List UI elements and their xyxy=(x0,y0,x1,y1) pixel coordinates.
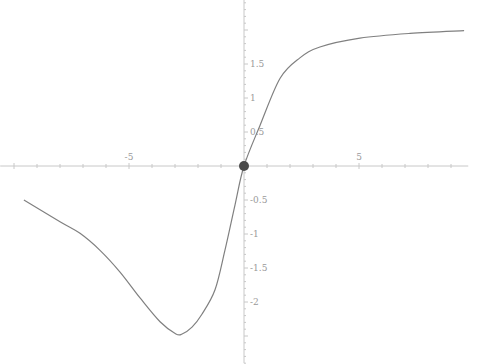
origin-point-marker[interactable] xyxy=(239,161,249,171)
tick-labels: -55-2-1.5-1-0.50.511.5 xyxy=(125,59,363,307)
axis-ticks xyxy=(14,3,451,363)
y-tick-label: -1 xyxy=(250,229,259,239)
function-plot: -55-2-1.5-1-0.50.511.5 xyxy=(0,0,488,364)
axes xyxy=(0,0,468,363)
y-tick-label: -0.5 xyxy=(250,195,268,205)
y-tick-label: 1.5 xyxy=(250,59,265,69)
y-tick-label: -2 xyxy=(250,297,259,307)
y-tick-label: -1.5 xyxy=(250,263,268,273)
x-tick-label: 5 xyxy=(356,152,362,162)
x-tick-label: -5 xyxy=(125,152,134,162)
y-tick-label: 1 xyxy=(250,93,256,103)
